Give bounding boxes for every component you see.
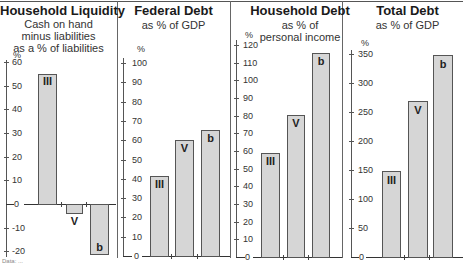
category-separator — [171, 254, 172, 259]
y-tick-label: 90 — [132, 77, 142, 87]
bar-label: V — [175, 142, 194, 154]
y-tick — [349, 112, 354, 113]
panel-divider — [230, 1, 231, 258]
panel-title: Federal Debt — [117, 3, 230, 18]
bar-V — [408, 101, 428, 258]
y-tick-label: 100 — [358, 194, 373, 204]
bar-b — [433, 55, 453, 258]
y-tick — [4, 133, 9, 134]
bar-label: III — [150, 178, 169, 190]
y-tick — [121, 198, 126, 199]
category-separator — [283, 255, 284, 260]
y-tick-label: 20 — [132, 212, 142, 222]
y-unit-label: % — [245, 30, 253, 40]
y-tick — [234, 80, 239, 81]
category-separator — [197, 254, 198, 259]
y-tick-label: 60 — [12, 57, 22, 67]
zero-line — [123, 256, 132, 257]
y-tick-label: 30 — [132, 193, 142, 203]
y-tick — [234, 133, 239, 134]
y-tick-label: 60 — [243, 146, 253, 156]
category-separator — [61, 202, 62, 207]
bar-label: V — [66, 215, 83, 227]
bar-III — [38, 74, 57, 205]
y-tick-label: 10 — [12, 175, 22, 185]
y-tick-label: 40 — [132, 174, 142, 184]
bar-b — [312, 53, 330, 258]
y-tick-label: 30 — [243, 199, 253, 209]
bar-label: V — [287, 117, 305, 129]
category-separator — [308, 255, 309, 260]
y-tick — [234, 169, 239, 170]
y-tick — [234, 116, 239, 117]
y-axis — [351, 50, 352, 257]
panel-subtitle-line: as % of GDP — [352, 19, 463, 31]
y-tick — [349, 54, 354, 55]
top-border — [0, 1, 463, 2]
bar-label: III — [382, 174, 401, 186]
y-tick-label: 20 — [243, 217, 253, 227]
y-tick-label: 110 — [243, 58, 257, 68]
y-tick-label: -10 — [12, 223, 25, 233]
panel-title: Total Debt — [352, 3, 463, 18]
y-tick — [234, 63, 239, 64]
y-tick — [4, 62, 9, 63]
y-tick — [4, 180, 9, 181]
y-tick-label: 0 — [14, 199, 19, 209]
bar-label: b — [201, 132, 220, 144]
y-tick-label: 60 — [132, 135, 142, 145]
bar-III — [261, 153, 280, 258]
y-tick-label: 120 — [243, 40, 258, 50]
bar-label: b — [433, 58, 453, 70]
bar-b — [201, 130, 220, 257]
y-tick — [234, 151, 239, 152]
bar-V — [175, 140, 194, 257]
y-tick-label: 10 — [132, 232, 142, 242]
y-tick-label: 80 — [132, 97, 142, 107]
y-tick-label: 100 — [243, 75, 258, 85]
y-tick — [121, 237, 126, 238]
y-tick-label: 10 — [243, 234, 253, 244]
y-tick-label: 100 — [132, 58, 147, 68]
y-tick — [234, 239, 239, 240]
bar-label: III — [261, 155, 280, 167]
panel-divider — [117, 1, 118, 258]
panel-subtitle-line: as % of — [240, 19, 360, 31]
y-tick-label: 0 — [245, 252, 250, 262]
y-tick — [234, 186, 239, 187]
y-tick-label: 30 — [12, 128, 22, 138]
y-tick-label: 200 — [358, 136, 373, 146]
y-tick — [4, 86, 9, 87]
y-tick-label: -20 — [12, 246, 25, 256]
panel-title: Household Liquidity — [0, 3, 117, 18]
y-tick-label: 50 — [12, 81, 22, 91]
y-tick-label: 80 — [243, 111, 253, 121]
y-tick — [121, 102, 126, 103]
category-separator — [86, 202, 87, 207]
bar-label: b — [90, 241, 109, 253]
y-tick-label: 350 — [358, 49, 373, 59]
y-tick-label: 40 — [243, 181, 253, 191]
zero-line — [6, 204, 14, 205]
y-tick — [349, 170, 354, 171]
y-tick — [4, 251, 9, 252]
y-tick-label: 50 — [358, 223, 368, 233]
y-tick-label: 0 — [134, 251, 139, 261]
y-tick — [121, 82, 126, 83]
y-tick-label: 70 — [132, 116, 142, 126]
y-tick — [349, 199, 354, 200]
y-unit-label: % — [137, 44, 145, 54]
y-tick — [4, 109, 9, 110]
y-tick — [121, 140, 126, 141]
bar-V — [287, 115, 305, 258]
source-footnote: Data: ... — [2, 258, 23, 263]
panel-subtitle-line: as % of GDP — [117, 19, 230, 31]
category-separator — [429, 255, 430, 260]
y-tick-label: 50 — [243, 164, 253, 174]
y-tick-label: 0 — [359, 252, 364, 262]
y-unit-label: % — [361, 38, 369, 48]
y-tick — [121, 217, 126, 218]
bar-label: III — [38, 75, 57, 87]
y-tick-label: 90 — [243, 93, 253, 103]
y-tick — [121, 63, 126, 64]
